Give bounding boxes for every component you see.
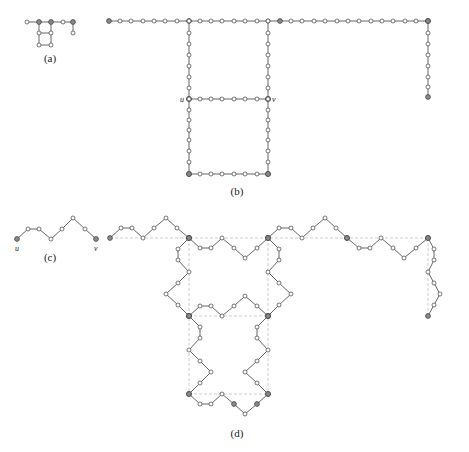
vertex-node <box>255 325 259 329</box>
vertex-node <box>255 304 259 308</box>
vertex-node <box>300 236 304 240</box>
vertex-node <box>277 258 281 262</box>
vertex-node <box>164 216 168 220</box>
vertex-node <box>209 19 213 23</box>
panel-a: (a) <box>25 20 75 65</box>
vertex-node <box>141 19 145 23</box>
vertex-node <box>220 172 224 176</box>
vertex-node <box>432 258 436 262</box>
vertex-label-v: v <box>272 95 276 104</box>
vertex-node <box>220 236 224 240</box>
vertex-node <box>176 247 180 251</box>
vertex-node <box>266 75 270 79</box>
vertex-node <box>266 19 270 23</box>
vertex-node <box>187 348 191 352</box>
vertex-node <box>289 226 293 230</box>
vertex-node <box>187 31 191 35</box>
vertex-node <box>277 247 281 251</box>
vertex-node <box>175 226 179 230</box>
figure-canvas: (a) u v (b) u v (c) (d) <box>0 0 469 452</box>
vertex-node <box>232 304 236 308</box>
vertex-node <box>432 247 436 251</box>
vertex-node <box>266 86 270 90</box>
key-vertex-node <box>232 402 237 407</box>
vertex-node <box>25 20 29 24</box>
vertex-node <box>198 381 202 385</box>
vertex-node <box>426 42 430 46</box>
vertex-node <box>266 53 270 57</box>
vertex-node <box>312 19 316 23</box>
vertex-node <box>232 97 236 101</box>
vertex-node <box>118 19 122 23</box>
key-vertex-node <box>71 20 76 25</box>
vertex-node <box>198 402 202 406</box>
vertex-node <box>220 97 224 101</box>
vertex-node <box>243 370 247 374</box>
vertex-node <box>277 303 281 307</box>
vertex-node <box>187 108 191 112</box>
key-vertex-node <box>15 237 20 242</box>
vertex-node <box>209 370 213 374</box>
vertex-node <box>414 19 418 23</box>
vertex-node <box>334 226 338 230</box>
vertex-node <box>432 303 436 307</box>
vertex-node <box>209 402 213 406</box>
vertex-node <box>220 19 224 23</box>
vertex-node <box>209 304 213 308</box>
vertex-node <box>209 172 213 176</box>
vertex-node <box>243 412 247 416</box>
vertex-node <box>187 128 191 132</box>
key-vertex-node <box>426 314 431 319</box>
vertex-node <box>380 19 384 23</box>
vertex-node <box>198 246 202 250</box>
vertex-node <box>266 31 270 35</box>
vertex-node <box>426 31 430 35</box>
vertex-node <box>71 216 75 220</box>
vertex-node <box>176 303 180 307</box>
key-vertex-node <box>94 237 99 242</box>
vertex-node <box>232 246 236 250</box>
vertex-node <box>220 314 224 318</box>
vertex-node <box>198 359 202 363</box>
panel-b-nodes <box>107 19 431 177</box>
vertex-node <box>71 31 75 35</box>
vertex-node <box>255 381 259 385</box>
key-vertex-node <box>187 172 192 177</box>
vertex-node <box>187 53 191 57</box>
panel-c-nodes <box>15 216 99 241</box>
vertex-node <box>426 53 430 57</box>
vertex-node <box>176 258 180 262</box>
vertex-node <box>289 19 293 23</box>
key-vertex-node <box>278 19 283 24</box>
vertex-node <box>266 97 270 101</box>
vertex-node <box>60 227 64 231</box>
vertex-node <box>198 19 202 23</box>
vertex-node <box>243 294 247 298</box>
vertex-node <box>187 97 191 101</box>
vertex-node <box>129 19 133 23</box>
vertex-node <box>209 246 213 250</box>
vertex-node <box>232 19 236 23</box>
vertex-node <box>130 226 134 230</box>
vertex-node <box>368 246 372 250</box>
vertex-node <box>357 246 361 250</box>
vertex-node <box>26 227 30 231</box>
vertex-node <box>164 292 168 296</box>
vertex-node <box>277 281 281 285</box>
vertex-node <box>255 359 259 363</box>
vertex-node <box>198 336 202 340</box>
key-vertex-node <box>426 95 431 100</box>
vertex-node <box>49 31 53 35</box>
vertex-node <box>255 336 259 340</box>
vertex-node <box>37 43 41 47</box>
vertex-node <box>37 227 41 231</box>
vertex-node <box>255 97 259 101</box>
vertex-label-u: u <box>15 244 19 253</box>
vertex-label-u: u <box>180 95 184 104</box>
key-vertex-node <box>107 19 112 24</box>
vertex-node <box>311 226 315 230</box>
panel-b: u v (b) <box>107 19 431 198</box>
vertex-node <box>255 246 259 250</box>
vertex-node <box>49 237 53 241</box>
key-vertex-node <box>108 236 113 241</box>
